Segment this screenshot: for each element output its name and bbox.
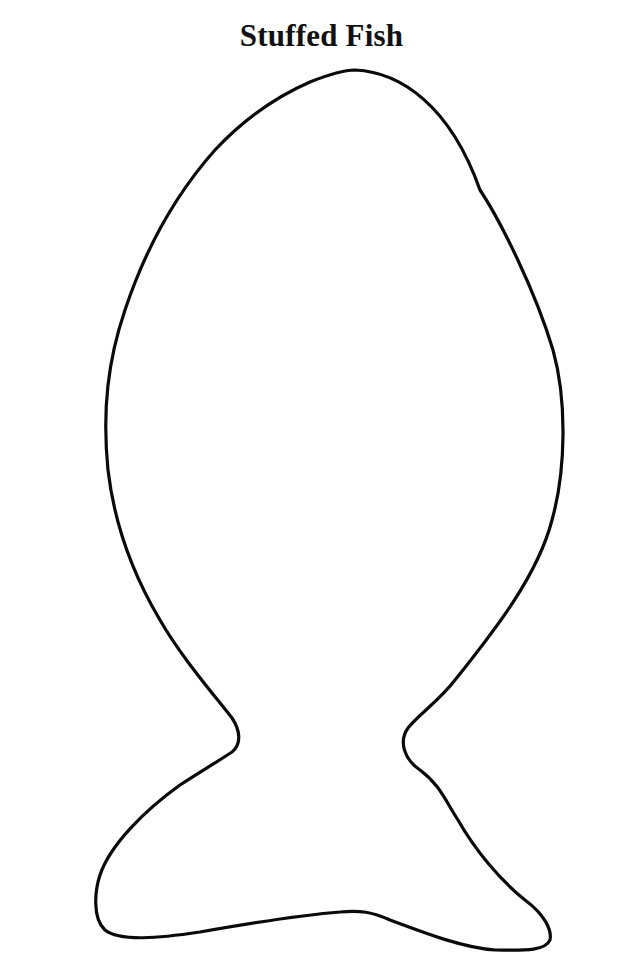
fish-outline-icon [0,0,643,977]
fish-body-outline [96,70,563,950]
